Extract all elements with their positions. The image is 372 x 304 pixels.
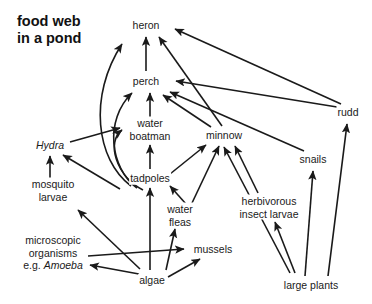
node-microscopic-organisms-label-line1: microscopic [23,234,83,247]
node-hydra-label: Hydra [36,139,64,151]
amoeba-prefix: e.g. [23,259,43,271]
node-herbivorous-insect-larvae-label-line1: herbivorous [240,195,299,208]
node-algae-label: algae [139,274,165,286]
amoeba-genus: Amoeba [44,259,83,271]
edge-tadpoles-to-minnow [170,145,206,174]
edge-largeplants-to-herbivorousinsectlarvae [275,222,295,273]
node-water-boatman-label-line1: water [130,117,171,130]
edge-algae-to-mosquitolarvae [78,210,140,269]
node-snails[interactable]: snails [299,153,328,166]
node-hydra[interactable]: Hydra [35,139,65,152]
node-microscopic-organisms-label-line3: e.g. Amoeba [23,259,83,272]
node-tadpoles-label: tadpoles [130,172,170,184]
node-water-fleas-label-line2: fleas [167,215,193,228]
edge-waterfleas-to-tadpoles [170,186,186,204]
node-water-fleas[interactable]: water fleas [166,203,194,228]
edge-largeplants-to-snails [305,171,313,276]
node-microscopic-organisms[interactable]: microscopic organisms e.g. Amoeba [22,234,84,272]
node-water-fleas-label-line1: water [167,203,193,216]
edge-hydra-to-waterboatman [70,128,120,142]
node-minnow-label: minnow [206,129,242,141]
node-mosquito-larvae[interactable]: mosquito larvae [31,178,76,203]
node-tadpoles[interactable]: tadpoles [129,172,171,185]
node-microscopic-organisms-label-line2: organisms [23,247,83,260]
node-mussels[interactable]: mussels [193,243,234,256]
node-water-boatman[interactable]: water boatman [129,117,172,142]
node-herbivorous-insect-larvae-label-line2: insect larvae [240,207,299,220]
node-large-plants[interactable]: large plants [283,279,339,292]
node-heron[interactable]: heron [132,19,161,32]
edge-herbivorousinsectlarvae-to-minnow [235,146,258,193]
node-mosquito-larvae-label-line2: larvae [32,190,75,203]
node-perch-label: perch [133,75,159,87]
edge-algae-to-microscopicorganisms [90,265,139,274]
node-rudd-label: rudd [337,106,358,118]
edge-tadpoles-to-heron-curve [100,44,131,186]
node-snails-label: snails [300,153,327,165]
node-herbivorous-insect-larvae[interactable]: herbivorous insect larvae [239,195,300,220]
node-water-boatman-label-line2: boatman [130,129,171,142]
diagram-title: food web in a pond [17,13,81,47]
edge-largeplants-to-rudd [328,124,347,276]
node-large-plants-label: large plants [284,279,338,291]
node-algae[interactable]: algae [138,274,166,287]
food-web-diagram: food web in a pond [0,0,372,304]
node-mosquito-larvae-label-line1: mosquito [32,178,75,191]
node-perch[interactable]: perch [132,75,160,88]
edge-waterfleas-to-minnow [192,146,219,203]
node-heron-label: heron [133,19,160,31]
node-rudd[interactable]: rudd [336,106,359,119]
edge-algae-to-mussels [168,259,200,277]
edge-rudd-to-heron [175,29,341,104]
edge-snails-to-perch [170,92,304,151]
node-mussels-label: mussels [194,243,233,255]
node-minnow[interactable]: minnow [205,129,243,142]
